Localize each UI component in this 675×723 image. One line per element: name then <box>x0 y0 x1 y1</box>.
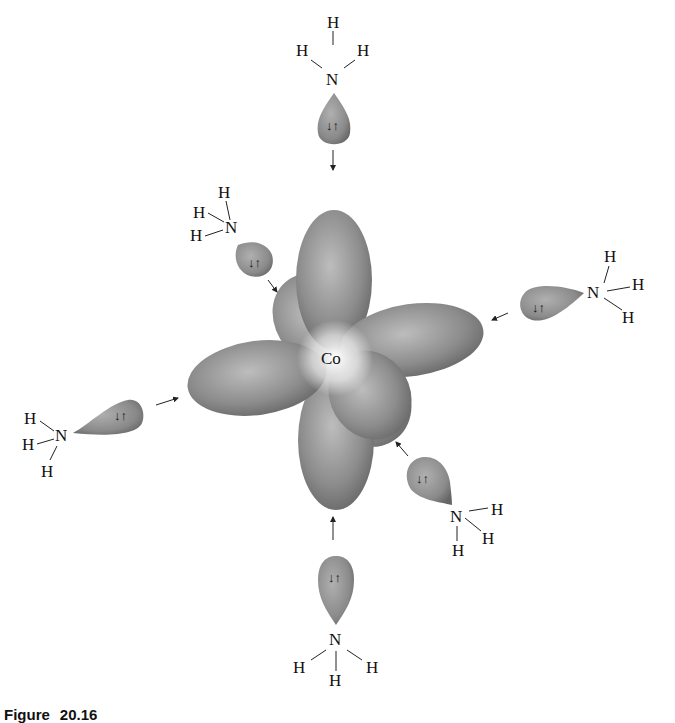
arrow-icon <box>492 313 508 320</box>
hydrogen-label: H <box>357 41 369 60</box>
lone-pair-lobe <box>520 286 584 321</box>
hydrogen-label: H <box>604 247 616 266</box>
ligand-bottom: ↓↑ N H H H <box>293 517 378 690</box>
ligand-top: H H H N ↓↑ <box>296 13 369 170</box>
electron-pair-icon: ↓↑ <box>328 570 341 585</box>
electron-pair-icon: ↓↑ <box>248 255 261 270</box>
hydrogen-label: H <box>296 41 308 60</box>
hydrogen-label: H <box>24 409 36 428</box>
nitrogen-label: N <box>55 426 67 445</box>
hydrogen-label: H <box>452 541 464 560</box>
caption-label: Figure <box>4 706 50 723</box>
hydrogen-label: H <box>190 226 202 245</box>
figure-caption: Figure20.16 <box>4 706 97 723</box>
arrow-icon <box>396 442 408 456</box>
hydrogen-label: H <box>41 462 53 481</box>
electron-pair-icon: ↓↑ <box>532 300 545 315</box>
hydrogen-label: H <box>366 658 378 677</box>
hydrogen-label: H <box>218 183 230 202</box>
nitrogen-label: N <box>225 218 237 237</box>
nitrogen-label: N <box>587 283 599 302</box>
lone-pair-lobe <box>73 400 143 435</box>
ligand-lower-right: ↓↑ N H H H <box>396 442 503 560</box>
hydrogen-label: H <box>491 500 503 519</box>
nitrogen-label: N <box>329 630 341 649</box>
ligand-right: H H H N ↓↑ <box>492 247 644 327</box>
lone-pair-lobe <box>407 457 452 505</box>
hydrogen-label: H <box>193 203 205 222</box>
nitrogen-label: N <box>326 70 338 89</box>
hydrogen-label: H <box>482 529 494 548</box>
electron-pair-icon: ↓↑ <box>326 118 339 133</box>
electron-pair-icon: ↓↑ <box>114 408 127 423</box>
hydrogen-label: H <box>632 275 644 294</box>
arrow-icon <box>156 398 178 405</box>
hydrogen-label: H <box>622 308 634 327</box>
lone-pair-lobe <box>318 556 354 625</box>
hydrogen-label: H <box>22 435 34 454</box>
caption-number: 20.16 <box>60 706 98 723</box>
ligand-left: H H H N ↓↑ <box>22 398 178 481</box>
ligand-upper-left: H H H N ↓↑ <box>190 183 277 292</box>
cobalt-label: Co <box>321 349 341 368</box>
hydrogen-label: H <box>327 13 339 32</box>
electron-pair-icon: ↓↑ <box>416 471 429 486</box>
nitrogen-label: N <box>450 507 462 526</box>
hydrogen-label: H <box>293 658 305 677</box>
arrow-icon <box>268 280 277 292</box>
hydrogen-label: H <box>329 671 341 690</box>
